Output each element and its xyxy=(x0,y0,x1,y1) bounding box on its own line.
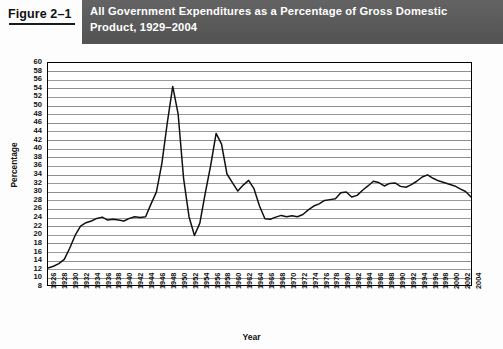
x-tick-1952: 1952 xyxy=(192,273,199,289)
figure-title-band: All Government Expenditures as a Percent… xyxy=(82,0,503,44)
series-polyline xyxy=(48,86,471,267)
plot-area xyxy=(47,62,472,286)
x-tick-1978: 1978 xyxy=(333,273,340,289)
x-tick-1976: 1976 xyxy=(323,273,330,289)
x-tick-1928: 1928 xyxy=(61,273,68,289)
figure-page: Figure 2–1 All Government Expenditures a… xyxy=(0,0,503,349)
series-line-chart xyxy=(48,63,471,285)
x-tick-1968: 1968 xyxy=(279,273,286,289)
x-axis-tick-labels: 1926192819301932193419361938194019421944… xyxy=(47,288,472,328)
x-tick-1986: 1986 xyxy=(377,273,384,289)
x-tick-1982: 1982 xyxy=(355,273,362,289)
x-tick-1944: 1944 xyxy=(148,273,155,289)
x-tick-1966: 1966 xyxy=(268,273,275,289)
x-tick-1996: 1996 xyxy=(432,273,439,289)
x-tick-1970: 1970 xyxy=(290,273,297,289)
figure-header: Figure 2–1 All Government Expenditures a… xyxy=(0,0,503,48)
x-tick-1980: 1980 xyxy=(344,273,351,289)
x-tick-1988: 1988 xyxy=(388,273,395,289)
x-tick-1958: 1958 xyxy=(224,273,231,289)
x-tick-1956: 1956 xyxy=(214,273,221,289)
figure-number: Figure 2–1 xyxy=(8,7,72,21)
figure-number-wrap: Figure 2–1 xyxy=(8,4,80,24)
y-tick-8: 8 xyxy=(38,282,42,290)
x-tick-1984: 1984 xyxy=(366,273,373,289)
y-axis-tick-labels: 6058565452504846444240383634323028262422… xyxy=(0,62,45,286)
x-tick-1934: 1934 xyxy=(94,273,101,289)
x-tick-1930: 1930 xyxy=(72,273,79,289)
x-tick-1932: 1932 xyxy=(83,273,90,289)
chart-area: Percentage 60585654525048464442403836343… xyxy=(0,48,503,349)
x-tick-1960: 1960 xyxy=(235,273,242,289)
figure-title: All Government Expenditures as a Percent… xyxy=(90,4,495,35)
x-tick-1926: 1926 xyxy=(50,273,57,289)
x-tick-1998: 1998 xyxy=(442,273,449,289)
x-tick-1948: 1948 xyxy=(170,273,177,289)
figure-number-underline xyxy=(9,23,75,25)
x-axis-title: Year xyxy=(0,332,503,342)
x-tick-1946: 1946 xyxy=(159,273,166,289)
x-tick-1950: 1950 xyxy=(181,273,188,289)
x-tick-1992: 1992 xyxy=(410,273,417,289)
x-tick-1938: 1938 xyxy=(115,273,122,289)
x-tick-1942: 1942 xyxy=(137,273,144,289)
x-tick-1964: 1964 xyxy=(257,273,264,289)
x-tick-1990: 1990 xyxy=(399,273,406,289)
x-tick-2004: 2004 xyxy=(475,273,482,289)
x-tick-1936: 1936 xyxy=(105,273,112,289)
x-tick-1972: 1972 xyxy=(301,273,308,289)
x-tick-1974: 1974 xyxy=(312,273,319,289)
x-tick-1962: 1962 xyxy=(246,273,253,289)
x-tick-2002: 2002 xyxy=(464,273,471,289)
x-tick-1994: 1994 xyxy=(421,273,428,289)
x-tick-2000: 2000 xyxy=(453,273,460,289)
x-tick-1954: 1954 xyxy=(203,273,210,289)
x-tick-1940: 1940 xyxy=(126,273,133,289)
